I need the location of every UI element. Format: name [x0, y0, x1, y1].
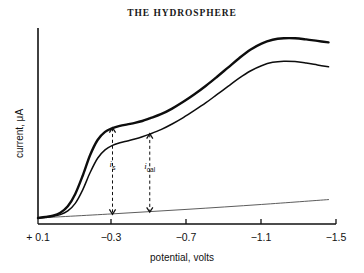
x-tick-label-1: −0.3	[101, 231, 122, 243]
x-tick-label-3: −1.1	[251, 231, 272, 243]
polarogram-curves	[38, 38, 329, 218]
residual-current-line	[38, 200, 329, 218]
polarogram-figure: THE HYDROSPHERE current, μA potential, v…	[0, 0, 364, 273]
curve-residual-current-baseline	[38, 200, 329, 218]
x-tick-label-2: −0.7	[176, 231, 197, 243]
curve-sample-alone	[38, 61, 329, 218]
annotation-label-i-s: is	[110, 159, 116, 171]
x-tick-label-4: −1.5	[326, 231, 347, 243]
x-tick-label-0: + 0.1	[26, 231, 50, 243]
axes	[38, 28, 336, 224]
annotation-label-i-cal: ical	[144, 161, 155, 173]
